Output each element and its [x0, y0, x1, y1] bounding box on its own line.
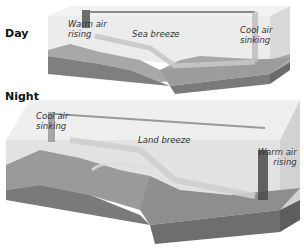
panel-title-day: Day [5, 27, 28, 40]
day-cool-air-line2: sinking [240, 35, 270, 45]
day-cool-air-line1: Cool air [240, 25, 272, 35]
night-cool-air-line1: Cool air [36, 111, 68, 121]
night-land-breeze-label: Land breeze [138, 136, 190, 146]
day-warm-air-label: Warm air rising [68, 20, 107, 39]
night-warm-air-line1: Warm air [258, 147, 297, 157]
night-warm-air-line2: rising [273, 157, 296, 167]
day-cool-air-label: Cool air sinking [240, 26, 272, 45]
panel-title-night: Night [5, 90, 39, 103]
night-cool-air-label: Cool air sinking [36, 112, 68, 131]
day-sea-breeze-label: Sea breeze [132, 30, 180, 40]
day-warm-air-line2: rising [68, 29, 91, 39]
night-warm-air-label: Warm air rising [258, 148, 297, 167]
night-cool-air-line2: sinking [36, 121, 66, 131]
day-warm-air-line1: Warm air [68, 19, 107, 29]
